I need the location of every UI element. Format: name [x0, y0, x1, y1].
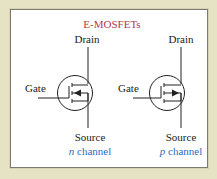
diagram-title: E-MOSFETs [83, 18, 140, 30]
n-channel-label: n channel [69, 145, 111, 157]
p-gate-label: Gate [118, 82, 139, 94]
p-source-label: Source [166, 131, 197, 143]
n-source-label: Source [75, 131, 106, 143]
n-symbol-lines [38, 47, 93, 128]
p-arrow-icon [172, 90, 179, 97]
n-arrow-icon [74, 90, 81, 97]
p-channel-mosfet-symbol: Drain Gate Source p channel [118, 33, 202, 157]
n-gate-label: Gate [25, 82, 46, 94]
n-drain-label: Drain [74, 33, 100, 45]
e-mosfet-diagram: E-MOSFETs Drain Gate Source n channel [0, 0, 217, 179]
n-channel-mosfet-symbol: Drain Gate Source n channel [25, 33, 111, 157]
p-drain-label: Drain [168, 33, 194, 45]
p-channel-label: p channel [159, 145, 202, 157]
p-symbol-lines [133, 47, 185, 128]
